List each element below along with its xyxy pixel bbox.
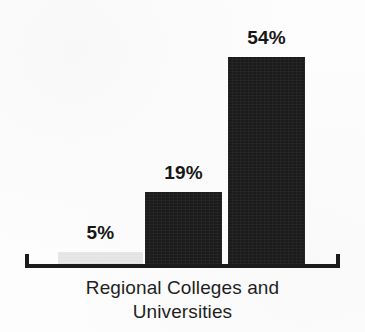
bar-value-label-3: 54%	[228, 27, 305, 49]
caption-line-1: Regional Colleges and	[0, 276, 365, 300]
axis-tick-right	[336, 254, 340, 268]
caption-line-2: Universities	[0, 300, 365, 324]
axis-tick-left	[25, 254, 29, 268]
x-axis	[25, 254, 340, 268]
bar-value-label-2: 19%	[145, 162, 222, 184]
bar-value-label-1: 5%	[58, 222, 143, 244]
bar-series-3	[228, 57, 305, 267]
bar-chart-figure: 5% 19% 54% Regional Colleges and Univers…	[0, 0, 365, 332]
x-axis-caption: Regional Colleges and Universities	[0, 276, 365, 324]
axis-baseline	[25, 264, 340, 268]
